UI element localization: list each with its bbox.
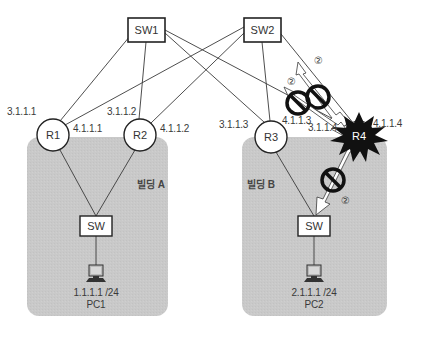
building-a-label: 빌딩 A (137, 178, 165, 190)
pc1-label: PC1 (87, 299, 106, 310)
svg-text:R4: R4 (352, 130, 366, 142)
link-sw2-r2 (151, 33, 244, 123)
ip-r4-upper: 3.1.1.4 (308, 122, 338, 133)
step-marker: ② (314, 55, 323, 66)
ip-r4-side: 4.1.1.4 (373, 118, 403, 129)
computer-icon (86, 265, 106, 282)
network-diagram: ② ② ② SW1 SW2 R1 R2 R3 (0, 0, 423, 344)
building-b-label: 빌딩 B (247, 178, 275, 190)
switch-sw2[interactable]: SW2 (244, 18, 281, 42)
switch-building-b[interactable]: SW (298, 216, 330, 236)
ip-r2-upper: 3.1.1.2 (107, 106, 137, 117)
ip-r1-side: 4.1.1.1 (73, 123, 103, 134)
switch-sw1[interactable]: SW1 (128, 18, 165, 42)
router-r1[interactable]: R1 (37, 119, 69, 151)
svg-text:SW1: SW1 (135, 24, 159, 36)
computer-icon (304, 265, 324, 282)
svg-text:SW: SW (87, 220, 105, 232)
svg-text:R2: R2 (133, 129, 147, 141)
ip-r1-upper: 3.1.1.1 (7, 106, 37, 117)
link-sw2-r3 (262, 42, 270, 121)
router-r2[interactable]: R2 (124, 119, 156, 151)
ip-r2-side: 4.1.1.2 (160, 123, 190, 134)
step-marker: ② (341, 195, 350, 206)
svg-text:SW: SW (305, 220, 323, 232)
svg-text:R1: R1 (46, 129, 60, 141)
svg-text:SW2: SW2 (251, 24, 275, 36)
switch-building-a[interactable]: SW (80, 216, 112, 236)
link-sw1-r2 (139, 42, 146, 119)
link-sw1-r4 (165, 30, 350, 128)
step-marker: ② (287, 76, 296, 87)
link-sw1-r3 (165, 33, 264, 122)
pc1-ip: 1.1.1.1 /24 (73, 287, 119, 298)
pc2-ip: 2.1.1.1 /24 (291, 287, 337, 298)
svg-text:R3: R3 (264, 131, 278, 143)
ip-r3-upper: 3.1.1.3 (219, 119, 249, 130)
pc2-label: PC2 (305, 299, 324, 310)
